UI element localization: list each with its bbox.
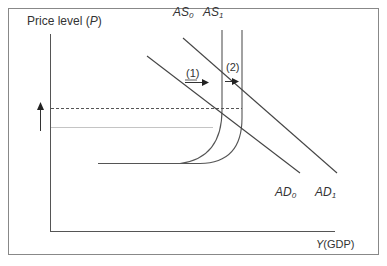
as0-label: AS0 (172, 5, 194, 20)
shift-1-label: (1) (186, 67, 199, 79)
as1-label: AS1 (202, 5, 223, 20)
x-axis-label: Y(GDP) (316, 238, 355, 250)
shift-2-label: (2) (226, 61, 239, 73)
as-ad-diagram: Price level (P) Y(GDP) AS0 AS1 AD0 AD1 (… (0, 0, 387, 266)
y-axis-label: Price level (P) (27, 14, 102, 28)
outer-frame (9, 9, 379, 255)
